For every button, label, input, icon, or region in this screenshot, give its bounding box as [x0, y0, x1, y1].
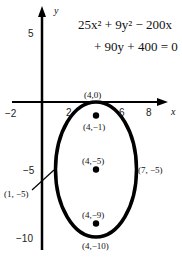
label-focus-upper: (4,−1) — [83, 122, 105, 132]
x-tick-6: 6 — [119, 107, 125, 118]
equation-line-2: + 90y + 400 = 0 — [94, 39, 178, 54]
focus-lower-dot — [93, 220, 99, 226]
focus-upper-dot — [93, 112, 99, 118]
label-bottom-vertex: (4,−10) — [82, 241, 109, 251]
center-dot — [93, 166, 99, 172]
x-axis-label: x — [170, 106, 176, 117]
y-tick-5: 5 — [28, 28, 34, 39]
y-axis-arrow-icon — [38, 6, 46, 17]
x-tick-8: 8 — [146, 107, 152, 118]
equation-line-1: 25x² + 9y² − 200x — [78, 17, 172, 32]
y-tick-neg5: −5 — [23, 165, 35, 176]
label-right-covertex: (7, −5) — [138, 165, 163, 175]
label-center: (4,−5) — [82, 156, 104, 166]
x-tick-2: 2 — [66, 107, 72, 118]
ellipse-diagram: y x −2 2 6 8 5 −5 −10 (4,0) (4,−1) (4,−5… — [0, 0, 182, 257]
label-focus-lower: (4,−9) — [82, 210, 104, 220]
y-axis-label: y — [53, 5, 59, 16]
x-axis-arrow-icon — [157, 98, 168, 106]
y-tick-neg10: −10 — [16, 233, 33, 244]
label-top-vertex: (4,0) — [84, 90, 101, 100]
label-left-covertex: (1, −5) — [4, 189, 29, 199]
x-tick-neg2: −2 — [5, 108, 17, 119]
